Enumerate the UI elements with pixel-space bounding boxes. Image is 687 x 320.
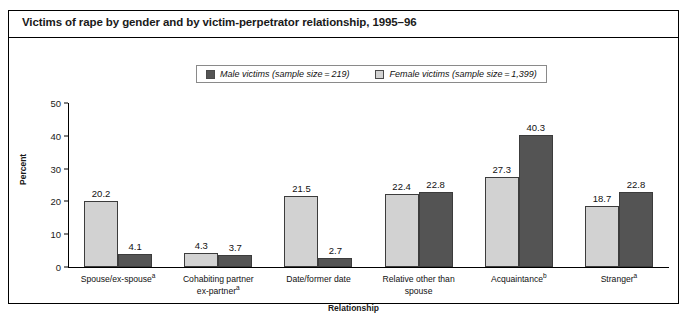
bar-male-value-label: 4.1 <box>128 241 141 252</box>
bar-female-wrapper: 22.4 <box>385 103 419 267</box>
bar-male-wrapper: 2.7 <box>318 103 352 267</box>
legend-swatch-icon <box>375 70 384 79</box>
legend-label-female: Female victims (sample size = 1,399) <box>389 69 536 79</box>
y-tick-label: 0 <box>43 262 61 273</box>
legend-swatch-icon <box>206 70 215 79</box>
category-label: Strangera <box>557 274 681 286</box>
bar-female-value-label: 18.7 <box>593 193 612 204</box>
bar-male-value-label: 22.8 <box>426 179 445 190</box>
y-tick-label: 40 <box>43 130 61 141</box>
bar-female-value-label: 21.5 <box>292 183 311 194</box>
y-tick-label: 50 <box>43 98 61 109</box>
bar-pair: 18.722.8 <box>569 103 669 267</box>
title-separator-rule <box>8 37 679 38</box>
y-tick-label: 10 <box>43 229 61 240</box>
bar-female[interactable] <box>585 206 619 267</box>
bar-male-value-label: 2.7 <box>329 245 342 256</box>
bar-female[interactable] <box>84 201 118 267</box>
bar-group: 20.24.1Spouse/ex-spousea <box>68 103 168 267</box>
bar-female-value-label: 20.2 <box>92 188 111 199</box>
bar-pair: 4.33.7 <box>168 103 268 267</box>
bar-pair: 27.340.3 <box>469 103 569 267</box>
bar-group: 4.33.7Cohabiting partnerex-partnera <box>168 103 268 267</box>
x-axis-title-text: Relationship <box>328 303 379 313</box>
bar-female-wrapper: 4.3 <box>184 103 218 267</box>
bar-group: 27.340.3Acquaintanceb <box>469 103 569 267</box>
bar-group: 22.422.8Relative other thanspouse <box>369 103 469 267</box>
bar-male-wrapper: 22.8 <box>419 103 453 267</box>
bar-male-value-label: 40.3 <box>527 122 546 133</box>
bar-male[interactable] <box>519 135 553 267</box>
bar-male[interactable] <box>218 255 252 267</box>
bar-female-wrapper: 18.7 <box>585 103 619 267</box>
y-tick-30: 30 <box>43 163 68 174</box>
legend-item-female[interactable]: Female victims (sample size = 1,399) <box>375 69 536 79</box>
bar-male-wrapper: 3.7 <box>218 103 252 267</box>
bar-female-wrapper: 27.3 <box>485 103 519 267</box>
bar-male[interactable] <box>318 258 352 267</box>
legend-item-male[interactable]: Male victims (sample size = 219) <box>206 69 349 79</box>
bar-pair: 20.24.1 <box>68 103 168 267</box>
y-tick-0: 0 <box>43 262 68 273</box>
chart-title: Victims of rape by gender and by victim-… <box>22 16 416 28</box>
legend-label-male: Male victims (sample size = 219) <box>220 69 349 79</box>
y-tick-10: 10 <box>43 229 68 240</box>
bar-female[interactable] <box>485 177 519 267</box>
y-tick-50: 50 <box>43 98 68 109</box>
bar-groups: 20.24.1Spouse/ex-spousea4.33.7Cohabiting… <box>68 103 669 267</box>
bar-male[interactable] <box>419 192 453 267</box>
bar-male-wrapper: 40.3 <box>519 103 553 267</box>
y-tick-label: 20 <box>43 196 61 207</box>
y-axis-title: Percent <box>18 154 28 185</box>
bar-male-wrapper: 4.1 <box>118 103 152 267</box>
x-axis-line <box>68 267 669 268</box>
bar-group: 21.52.7Date/former date <box>268 103 368 267</box>
y-tick-40: 40 <box>43 130 68 141</box>
bar-male[interactable] <box>619 192 653 267</box>
bar-female[interactable] <box>284 196 318 267</box>
bar-female-value-label: 27.3 <box>493 164 512 175</box>
bar-male-wrapper: 22.8 <box>619 103 653 267</box>
y-tick-label: 30 <box>43 163 61 174</box>
x-axis-title: Relationship <box>0 303 687 313</box>
bar-female-value-label: 4.3 <box>195 240 208 251</box>
bar-pair: 22.422.8 <box>369 103 469 267</box>
bar-group: 18.722.8Strangera <box>569 103 669 267</box>
y-tick-20: 20 <box>43 196 68 207</box>
bar-female-value-label: 22.4 <box>392 181 411 192</box>
bar-male[interactable] <box>118 254 152 267</box>
frame-top-rule <box>8 10 679 11</box>
frame-right-rule <box>678 10 679 304</box>
figure-container: Victims of rape by gender and by victim-… <box>0 0 687 320</box>
bar-female[interactable] <box>385 194 419 267</box>
bar-male-value-label: 3.7 <box>229 242 242 253</box>
chart-legend: Male victims (sample size = 219) Female … <box>196 65 547 83</box>
frame-left-rule <box>8 10 9 304</box>
bar-pair: 21.52.7 <box>268 103 368 267</box>
bar-female-wrapper: 21.5 <box>284 103 318 267</box>
bar-female-wrapper: 20.2 <box>84 103 118 267</box>
bar-male-value-label: 22.8 <box>627 179 646 190</box>
bar-female[interactable] <box>184 253 218 267</box>
